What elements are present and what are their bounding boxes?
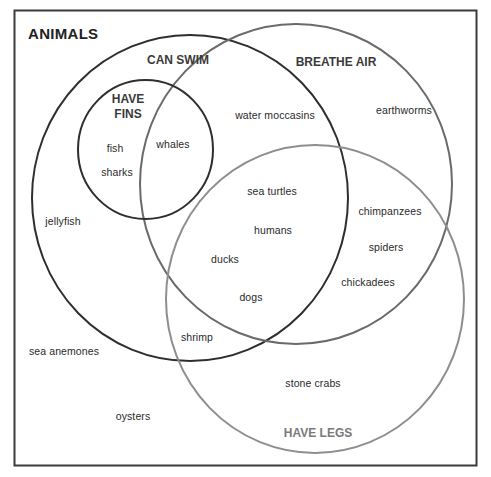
animal-dogs: dogs: [239, 291, 262, 303]
set-label-have-fins-line1: HAVE: [112, 92, 144, 107]
set-label-breathe-air: BREATHE AIR: [296, 55, 377, 70]
set-label-have-fins-line2: FINS: [112, 107, 144, 122]
set-label-have-fins: HAVE FINS: [112, 92, 144, 122]
animal-shrimp: shrimp: [181, 331, 213, 343]
circle-breathe-air: [140, 24, 452, 344]
animal-humans: humans: [254, 224, 292, 236]
set-label-can-swim: CAN SWIM: [147, 53, 209, 68]
animal-spiders: spiders: [369, 241, 404, 253]
circle-have-fins: [78, 80, 213, 219]
venn-diagram: ANIMALS CAN SWIM BREATHE AIR HAVE LEGS H…: [0, 0, 491, 477]
animal-fish: fish: [107, 142, 124, 154]
animal-earthworms: earthworms: [376, 104, 432, 116]
animal-sea-anemones: sea anemones: [29, 345, 99, 357]
circle-can-swim: [32, 35, 348, 361]
animal-ducks: ducks: [211, 253, 239, 265]
set-label-have-legs: HAVE LEGS: [284, 426, 352, 441]
animal-sea-turtles: sea turtles: [247, 185, 297, 197]
animal-chimpanzees: chimpanzees: [359, 205, 422, 217]
animal-chickadees: chickadees: [341, 276, 395, 288]
universe-frame: [15, 11, 477, 466]
diagram-title: ANIMALS: [28, 25, 98, 42]
animal-water-moccasins: water moccasins: [235, 109, 315, 121]
animal-whales: whales: [156, 138, 189, 150]
venn-canvas: [0, 0, 491, 477]
animal-oysters: oysters: [116, 410, 151, 422]
animal-jellyfish: jellyfish: [45, 215, 80, 227]
animal-sharks: sharks: [101, 166, 133, 178]
animal-stone-crabs: stone crabs: [285, 377, 340, 389]
